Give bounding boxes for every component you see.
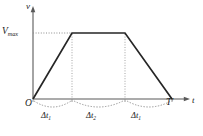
interval-label-dt2-subscript: 2 [93, 115, 96, 121]
vmax-label-subscript: max [8, 31, 18, 37]
interval-label-dt3: Δt1 [131, 111, 141, 120]
end-time-label: T′ [166, 98, 173, 108]
interval-arc-dt3 [127, 101, 171, 107]
velocity-curve [33, 33, 172, 99]
interval-arc-dt1 [34, 101, 71, 107]
y-axis [31, 6, 36, 99]
velocity-time-graph-figure: v t Vmax O T′ Δt1 Δt2 Δt1 [0, 0, 203, 136]
interval-label-dt1: Δt1 [41, 111, 51, 120]
interval-label-dt1-subscript: 1 [48, 115, 51, 121]
interval-arc-dt2 [74, 101, 123, 107]
plot-canvas [0, 0, 203, 136]
x-axis-label: t [192, 96, 195, 105]
interval-arc-group [34, 101, 171, 107]
vmax-label: Vmax [2, 27, 18, 37]
interval-label-dt2: Δt2 [86, 111, 96, 120]
vmax-label-base: V [2, 26, 8, 36]
y-axis-label: v [26, 2, 30, 11]
interval-label-dt3-subscript: 1 [138, 115, 141, 121]
origin-label: O [25, 99, 32, 109]
